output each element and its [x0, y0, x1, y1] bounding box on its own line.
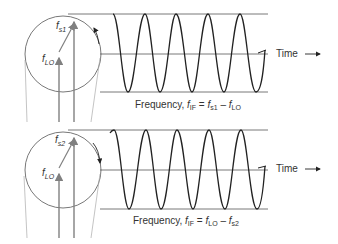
time-axis-label: Time — [276, 163, 298, 174]
rotation-arrow-cw-icon — [93, 143, 100, 163]
panel-top: fs1 fLO Time Frequency, fIF = fs1 – fLO — [25, 14, 320, 122]
signal-label: fs2 — [55, 134, 65, 147]
lo-label: fLO — [42, 53, 55, 66]
if-waveform — [110, 130, 265, 209]
projection-line — [91, 58, 100, 122]
frequency-equation: Frequency, fIF = fLO – fs2 — [133, 215, 239, 227]
panel-bottom: fs2 fLO Time Frequency, fIF = fLO – fs2 — [24, 130, 320, 238]
projection-line — [24, 176, 27, 238]
projection-line — [25, 60, 27, 122]
signal-label: fs1 — [56, 20, 66, 33]
projection-line — [91, 174, 100, 238]
frequency-equation: Frequency, fIF = fs1 – fLO — [135, 99, 241, 111]
mixer-phasor-diagram: fs1 fLO Time Frequency, fIF = fs1 – fLO … — [0, 0, 338, 244]
time-axis-label: Time — [276, 48, 298, 59]
if-waveform — [113, 14, 265, 92]
lo-label: fLO — [42, 167, 55, 180]
